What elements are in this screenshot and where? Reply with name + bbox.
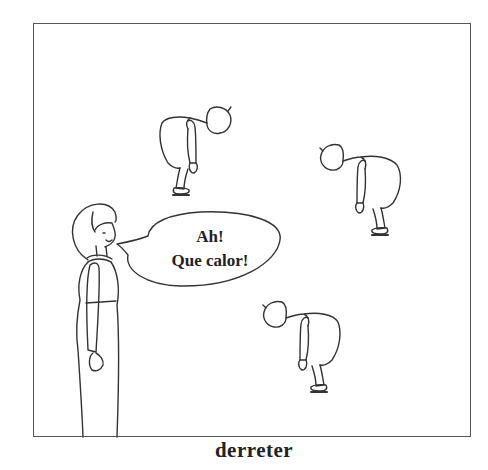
- vocabulary-caption: derreter: [0, 438, 488, 463]
- speech-bubble-text: Ah! Que calor!: [135, 225, 285, 273]
- wilting-woman-top-figure: [160, 107, 231, 195]
- wilting-woman-bottom-figure: [263, 301, 340, 392]
- speech-line-2: Que calor!: [135, 249, 285, 273]
- standing-woman-figure: [73, 204, 119, 437]
- speech-line-1: Ah!: [135, 225, 285, 249]
- wilting-woman-right-figure: [320, 144, 400, 235]
